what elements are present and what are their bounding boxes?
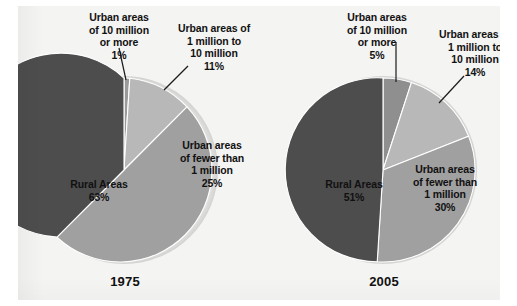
year-label-1975: 1975: [80, 274, 170, 289]
label-2005-urban-1m-to-10m: Urban areas of 1 million to 10 million 1…: [425, 28, 500, 78]
leader-line-2005-urban-1m-to-10m: [439, 76, 464, 103]
slice-2005-rural[interactable]: [285, 78, 383, 262]
label-1975-rural: Rural Areas 63%: [52, 178, 146, 203]
label-2005-rural: Rural Areas 51%: [307, 178, 401, 203]
label-2005-urban-under-1m: Urban areas of fewer than 1 million 30%: [395, 163, 495, 213]
figure-panel: Urban areas of 10 million or more 1% Urb…: [18, 6, 500, 300]
pie-chart-1975: Urban areas of 10 million or more 1% Urb…: [18, 6, 259, 300]
pie-chart-2005: Urban areas of 10 million or more 5% Urb…: [259, 6, 500, 300]
label-1975-urban-1m-to-10m: Urban areas of 1 million to 10 million 1…: [164, 22, 264, 72]
year-label-2005: 2005: [339, 274, 429, 289]
label-1975-urban-under-1m: Urban areas of fewer than 1 million 25%: [164, 139, 260, 189]
label-1975-urban-10m-plus: Urban areas of 10 million or more 1%: [63, 11, 175, 61]
label-2005-urban-10m-plus: Urban areas of 10 million or more 5%: [321, 11, 433, 61]
